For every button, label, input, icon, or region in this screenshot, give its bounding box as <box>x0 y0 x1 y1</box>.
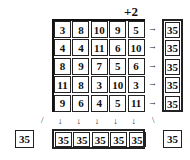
diag-right-arrow: \ <box>152 115 155 125</box>
grid-cell: 6 <box>72 95 89 112</box>
down-arrow-icon: ↓ <box>76 117 81 126</box>
col-sum-cell: 35 <box>92 132 109 147</box>
down-arrow-icon: ↓ <box>113 117 118 126</box>
diag-left-arrow: / <box>41 115 44 125</box>
right-arrow-icon: → <box>148 61 157 70</box>
grid-cell: 7 <box>91 58 108 75</box>
col-sum-cell: 35 <box>110 132 127 147</box>
grid-cell: 3 <box>91 76 108 93</box>
grid-cell: 8 <box>72 21 89 38</box>
grid-cell: 6 <box>109 39 126 56</box>
down-arrow-icon: ↓ <box>132 117 137 126</box>
right-arrow-icon: → <box>148 24 157 33</box>
grid-cell: 11 <box>54 76 71 93</box>
row-sum-cell: 35 <box>165 59 180 75</box>
grid-cell: 9 <box>109 21 126 38</box>
right-arrow-icon: → <box>148 98 157 107</box>
col-sum-cell: 35 <box>129 132 146 147</box>
grid-cell: 10 <box>128 39 145 56</box>
diag-right-sum: 35 <box>163 130 182 148</box>
grid-cell: 5 <box>109 58 126 75</box>
grid-cell: 8 <box>72 76 89 93</box>
grid-cell: 4 <box>54 39 71 56</box>
grid-cell: 9 <box>72 58 89 75</box>
right-arrow-icon: → <box>148 42 157 51</box>
grid-cell: 8 <box>54 58 71 75</box>
grid-cell: 3 <box>128 76 145 93</box>
grid-cell: 4 <box>72 39 89 56</box>
row-sum-cell: 35 <box>165 96 180 112</box>
row-sum-cell: 35 <box>165 77 180 93</box>
grid-cell: 10 <box>91 21 108 38</box>
grid-cell: 9 <box>54 95 71 112</box>
row-sum-cell: 35 <box>165 22 180 38</box>
grid-cell: 4 <box>91 95 108 112</box>
grid-cell: 6 <box>128 58 145 75</box>
grid-cell: 11 <box>128 95 145 112</box>
magic-square-grid: 3810954411610897561183103964511 <box>52 19 145 112</box>
col-sum-cell: 35 <box>55 132 72 147</box>
row-sums-column: 3535353535 <box>162 19 183 112</box>
col-sums-row: 3535353535 <box>52 129 145 149</box>
grid-cell: 5 <box>128 21 145 38</box>
diag-left-sum: 35 <box>15 130 34 148</box>
grid-cell: 5 <box>109 95 126 112</box>
col-sum-cell: 35 <box>73 132 90 147</box>
grid-cell: 11 <box>91 39 108 56</box>
grid-cell: 10 <box>109 76 126 93</box>
row-sum-cell: 35 <box>165 40 180 56</box>
right-arrow-icon: → <box>148 79 157 88</box>
down-arrow-icon: ↓ <box>95 117 100 126</box>
offset-label: +2 <box>124 4 138 20</box>
down-arrow-icon: ↓ <box>58 117 63 126</box>
grid-cell: 3 <box>54 21 71 38</box>
